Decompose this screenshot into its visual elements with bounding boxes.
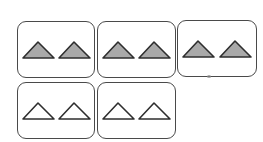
diagram-canvas: Five rounded boxes, each containing two …: [0, 0, 263, 142]
group-box-3: [177, 20, 257, 77]
filled-triangle-icon: [59, 42, 90, 58]
empty-triangle-icon: [59, 103, 90, 119]
triangle-pair-filled: [18, 22, 96, 79]
filled-triangle-icon: [23, 42, 54, 58]
filled-triangle-icon: [183, 41, 214, 57]
group-box-4: [17, 82, 95, 139]
empty-triangle-icon: [103, 103, 134, 119]
group-box-1: [17, 21, 95, 78]
group-box-5: [97, 82, 176, 139]
filled-triangle-icon: [103, 42, 134, 58]
empty-triangle-icon: [23, 103, 54, 119]
triangle-pair-empty: [18, 83, 96, 140]
triangle-pair-filled: [178, 21, 258, 78]
triangle-pair-empty: [98, 83, 177, 140]
group-box-2: [97, 21, 176, 78]
filled-triangle-icon: [220, 41, 251, 57]
filled-triangle-icon: [139, 42, 170, 58]
smudge-mark: [207, 75, 211, 78]
triangle-pair-filled: [98, 22, 177, 79]
empty-triangle-icon: [139, 103, 170, 119]
